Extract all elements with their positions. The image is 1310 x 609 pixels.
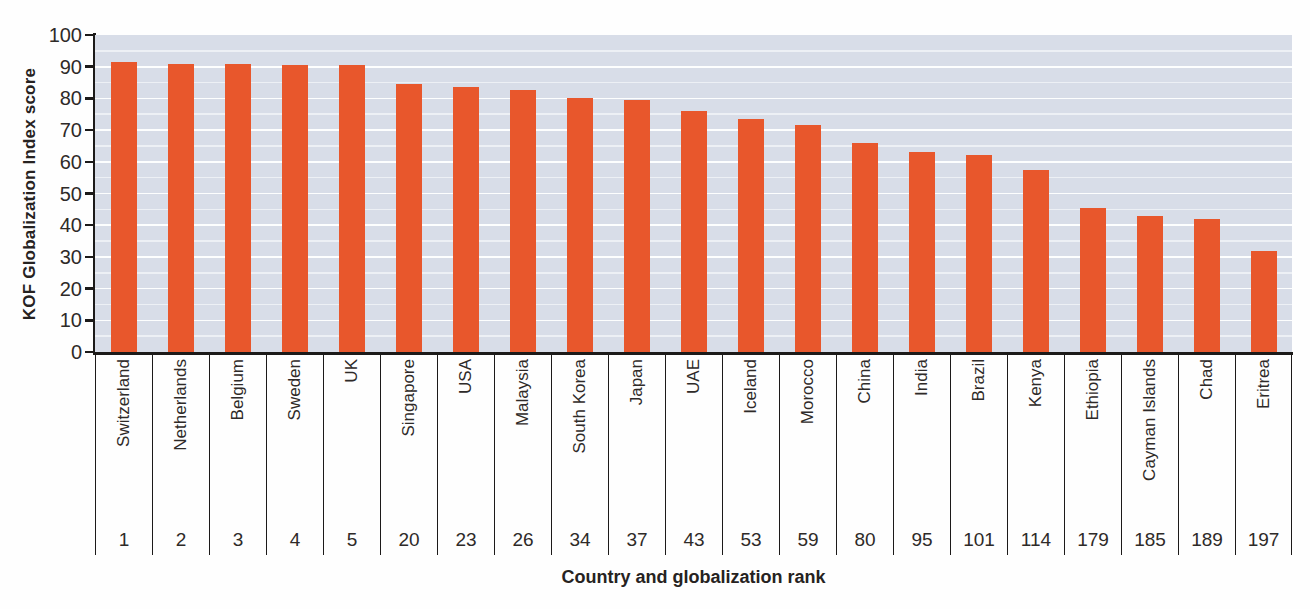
bar-ethiopia	[1080, 208, 1106, 352]
country-name-label: Sweden	[285, 359, 305, 420]
country-name-label: Switzerland	[114, 359, 134, 447]
y-tick-label-10: 10	[36, 310, 82, 330]
category-cell-cayman-islands: Cayman Islands185	[1121, 355, 1178, 555]
globalization-rank-label: 3	[210, 529, 266, 551]
category-cell-kenya: Kenya114	[1007, 355, 1064, 555]
bar-eritrea	[1251, 251, 1277, 352]
globalization-rank-label: 101	[951, 529, 1007, 551]
country-name-label: South Korea	[570, 359, 590, 454]
globalization-rank-label: 114	[1008, 529, 1064, 551]
globalization-rank-label: 5	[324, 529, 380, 551]
category-cell-switzerland: Switzerland1	[95, 355, 152, 555]
bar-chad	[1194, 219, 1220, 352]
category-cell-brazil: Brazil101	[950, 355, 1007, 555]
y-tick-label-60: 60	[36, 152, 82, 172]
country-name-label: Singapore	[399, 359, 419, 437]
country-name-wrap: Netherlands	[153, 359, 209, 517]
bar-iceland	[738, 119, 764, 352]
category-table: Switzerland1Netherlands2Belgium3Sweden4U…	[95, 355, 1292, 555]
bar-usa	[453, 87, 479, 352]
category-cell-belgium: Belgium3	[209, 355, 266, 555]
globalization-rank-label: 189	[1179, 529, 1235, 551]
country-name-wrap: China	[837, 359, 893, 517]
y-tick-label-20: 20	[36, 279, 82, 299]
category-cell-south-korea: South Korea34	[551, 355, 608, 555]
category-cell-eritrea: Eritrea197	[1235, 355, 1292, 555]
bar-cayman-islands	[1137, 216, 1163, 352]
country-name-wrap: Ethiopia	[1065, 359, 1121, 517]
country-name-label: India	[912, 359, 932, 396]
bar-uae	[681, 111, 707, 352]
country-name-wrap: Belgium	[210, 359, 266, 517]
country-name-label: Iceland	[741, 359, 761, 414]
y-tick-label-30: 30	[36, 247, 82, 267]
globalization-rank-label: 185	[1122, 529, 1178, 551]
x-axis-title: Country and globalization rank	[95, 567, 1292, 588]
y-tick-label-0: 0	[36, 342, 82, 362]
category-cell-japan: Japan37	[608, 355, 665, 555]
globalization-rank-label: 59	[780, 529, 836, 551]
country-name-label: Eritrea	[1254, 359, 1274, 409]
country-name-wrap: Sweden	[267, 359, 323, 517]
globalization-rank-label: 53	[723, 529, 779, 551]
country-name-label: Chad	[1197, 359, 1217, 400]
country-name-wrap: UAE	[666, 359, 722, 517]
gridline-80	[95, 98, 1292, 100]
country-name-label: Malaysia	[513, 359, 533, 426]
bar-singapore	[396, 84, 422, 352]
category-cell-singapore: Singapore20	[380, 355, 437, 555]
country-name-wrap: Malaysia	[495, 359, 551, 517]
gridline-85	[95, 82, 1292, 84]
country-name-wrap: Brazil	[951, 359, 1007, 517]
y-tick-label-90: 90	[36, 57, 82, 77]
country-name-wrap: Kenya	[1008, 359, 1064, 517]
category-cell-india: India95	[893, 355, 950, 555]
globalization-rank-label: 80	[837, 529, 893, 551]
bar-brazil	[966, 155, 992, 352]
globalization-rank-label: 1	[96, 529, 152, 551]
category-cell-usa: USA23	[437, 355, 494, 555]
country-name-label: Ethiopia	[1083, 359, 1103, 420]
bar-uk	[339, 65, 365, 352]
country-name-wrap: India	[894, 359, 950, 517]
y-tick-label-80: 80	[36, 88, 82, 108]
country-name-label: Morocco	[798, 359, 818, 424]
category-cell-uae: UAE43	[665, 355, 722, 555]
bar-morocco	[795, 125, 821, 352]
country-name-wrap: Switzerland	[96, 359, 152, 517]
country-name-wrap: Singapore	[381, 359, 437, 517]
country-name-wrap: South Korea	[552, 359, 608, 517]
globalization-rank-label: 20	[381, 529, 437, 551]
category-cell-morocco: Morocco59	[779, 355, 836, 555]
bar-japan	[624, 100, 650, 352]
country-name-label: Cayman Islands	[1140, 359, 1160, 481]
category-cell-uk: UK5	[323, 355, 380, 555]
country-name-wrap: Chad	[1179, 359, 1235, 517]
country-name-wrap: Eritrea	[1236, 359, 1291, 517]
country-name-label: USA	[456, 359, 476, 394]
bar-china	[852, 143, 878, 352]
globalization-rank-label: 4	[267, 529, 323, 551]
gridline-95	[95, 50, 1292, 52]
plot-area	[95, 35, 1292, 352]
globalization-rank-label: 23	[438, 529, 494, 551]
category-cell-malaysia: Malaysia26	[494, 355, 551, 555]
category-cell-iceland: Iceland53	[722, 355, 779, 555]
bar-south-korea	[567, 98, 593, 352]
gridline-90	[95, 66, 1292, 68]
country-name-label: UK	[342, 359, 362, 383]
country-name-wrap: UK	[324, 359, 380, 517]
globalization-rank-label: 197	[1236, 529, 1291, 551]
country-name-label: UAE	[684, 359, 704, 394]
country-name-label: Kenya	[1026, 359, 1046, 407]
globalization-rank-label: 34	[552, 529, 608, 551]
country-name-wrap: Japan	[609, 359, 665, 517]
country-name-label: Belgium	[228, 359, 248, 420]
country-name-wrap: USA	[438, 359, 494, 517]
y-tick-label-70: 70	[36, 120, 82, 140]
y-tick-label-100: 100	[36, 25, 82, 45]
bar-netherlands	[168, 64, 194, 352]
bar-sweden	[282, 65, 308, 352]
bar-kenya	[1023, 170, 1049, 352]
country-name-label: Brazil	[969, 359, 989, 402]
